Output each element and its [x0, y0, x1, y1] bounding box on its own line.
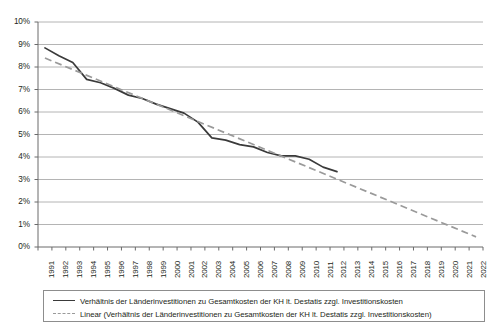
- y-tick-label: 8%: [0, 63, 30, 71]
- x-tick-label: 2014: [368, 261, 376, 278]
- x-tick-label: 2007: [271, 261, 279, 278]
- y-tick-label: 4%: [0, 153, 30, 161]
- x-tick-label: 2002: [201, 261, 209, 278]
- x-tick-label: 2017: [410, 261, 418, 278]
- y-tick-label: 10%: [0, 18, 30, 26]
- line-chart-plot: [0, 0, 495, 330]
- series-line-laenderinvestitionen: [45, 48, 337, 172]
- x-axis-ticks: [38, 247, 483, 251]
- x-tick-label: 2018: [424, 261, 432, 278]
- x-tick-label: 2010: [313, 261, 321, 278]
- legend-entry-label: Verhältnis der Länderinvestitionen zu Ge…: [80, 297, 403, 306]
- x-tick-label: 2011: [327, 262, 335, 278]
- x-tick-label: 2000: [174, 261, 182, 278]
- x-tick-label: 1999: [160, 261, 168, 278]
- y-tick-label: 7%: [0, 86, 30, 94]
- legend-entry-trend: Linear (Verhältnis der Länderinvestition…: [53, 308, 431, 320]
- x-tick-label: 2012: [340, 261, 348, 278]
- x-tick-label: 2001: [188, 261, 196, 278]
- x-tick-label: 2015: [382, 261, 390, 278]
- x-tick-label: 2019: [438, 261, 446, 278]
- x-tick-label: 2003: [215, 261, 223, 278]
- x-tick-label: 2008: [285, 261, 293, 278]
- x-tick-label: 1993: [76, 261, 84, 278]
- dashed-line-icon: [53, 309, 75, 319]
- x-tick-label: 1992: [62, 261, 70, 278]
- x-tick-label: 1998: [146, 261, 154, 278]
- series-line-trend-linear: [45, 58, 476, 237]
- legend-entry-series: Verhältnis der Länderinvestitionen zu Ge…: [53, 295, 403, 307]
- legend-entry-label: Linear (Verhältnis der Länderinvestition…: [80, 310, 431, 319]
- x-tick-label: 1997: [132, 261, 140, 278]
- y-tick-label: 9%: [0, 41, 30, 49]
- x-tick-label: 2021: [466, 261, 474, 278]
- solid-line-icon: [53, 296, 75, 306]
- y-tick-label: 6%: [0, 108, 30, 116]
- x-tick-label: 2013: [354, 261, 362, 278]
- x-tick-label: 2016: [396, 261, 404, 278]
- y-tick-label: 0%: [0, 243, 30, 251]
- y-tick-label: 2%: [0, 198, 30, 206]
- x-tick-label: 2005: [243, 261, 251, 278]
- x-tick-label: 1995: [104, 261, 112, 278]
- x-tick-label: 1994: [90, 261, 98, 278]
- x-tick-label: 2022: [480, 261, 488, 278]
- x-tick-label: 2004: [229, 261, 237, 278]
- y-tick-label: 5%: [0, 131, 30, 139]
- x-tick-label: 2006: [257, 261, 265, 278]
- x-tick-label: 1996: [118, 261, 126, 278]
- x-tick-label: 1991: [48, 261, 56, 278]
- x-tick-label: 2020: [452, 261, 460, 278]
- gridlines: [35, 22, 484, 247]
- x-tick-label: 2009: [299, 261, 307, 278]
- y-tick-label: 3%: [0, 176, 30, 184]
- chart-legend: Verhältnis der Länderinvestitionen zu Ge…: [43, 290, 485, 322]
- y-tick-label: 1%: [0, 221, 30, 229]
- chart-container: 0%1%2%3%4%5%6%7%8%9%10% 1991199219931994…: [0, 0, 495, 330]
